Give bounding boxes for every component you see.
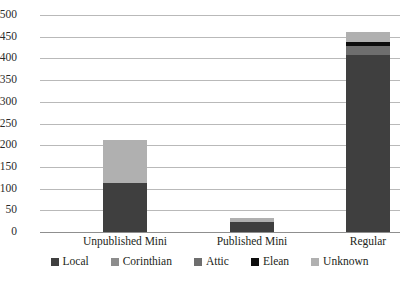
legend-item-attic[interactable]: Attic [194,256,229,268]
plot-area: 050100150200250300350400450500 [40,15,400,232]
y-axis-tick-label: 400 [0,52,17,64]
legend-label: Attic [206,256,229,268]
bar-segment-elean[interactable] [346,42,390,46]
legend-label: Corinthian [123,256,172,268]
bar-segment-unknown[interactable] [346,32,390,42]
y-axis-tick-label: 500 [0,9,17,21]
legend-item-unknown[interactable]: Unknown [311,256,368,268]
bar-group[interactable] [346,15,390,232]
legend-label: Local [63,256,89,268]
legend-label: Elean [263,256,289,268]
bar-segment-local[interactable] [103,183,147,232]
legend-item-elean[interactable]: Elean [251,256,289,268]
axis-line-zero [40,232,400,233]
stacked-bar-chart: 050100150200250300350400450500 Unpublish… [0,0,419,283]
y-axis-tick-label: 50 [0,204,17,216]
y-axis-tick-label: 100 [0,183,17,195]
y-axis-tick-label: 450 [0,31,17,43]
x-axis-tick-label: Regular [288,236,419,248]
bar-group[interactable] [230,15,274,232]
bar-group[interactable] [103,15,147,232]
y-axis-tick-label: 200 [0,139,17,151]
y-axis-tick-label: 250 [0,118,17,130]
y-axis-tick-label: 150 [0,161,17,173]
legend-swatch-icon [251,258,259,266]
bar-segment-local[interactable] [346,55,390,232]
bar-segment-unknown[interactable] [230,218,274,222]
legend-item-local[interactable]: Local [51,256,89,268]
legend-label: Unknown [323,256,368,268]
bar-segment-local[interactable] [230,222,274,232]
y-axis-tick-label: 0 [0,226,17,238]
legend-swatch-icon [51,258,59,266]
bar-segment-unknown[interactable] [103,140,147,183]
legend-swatch-icon [194,258,202,266]
legend-item-corinthian[interactable]: Corinthian [111,256,172,268]
legend-swatch-icon [311,258,319,266]
bar-segment-attic[interactable] [346,46,390,55]
legend-swatch-icon [111,258,119,266]
chart-legend: LocalCorinthianAtticEleanUnknown [0,256,419,268]
y-axis-tick-label: 300 [0,96,17,108]
y-axis-tick-label: 350 [0,74,17,86]
